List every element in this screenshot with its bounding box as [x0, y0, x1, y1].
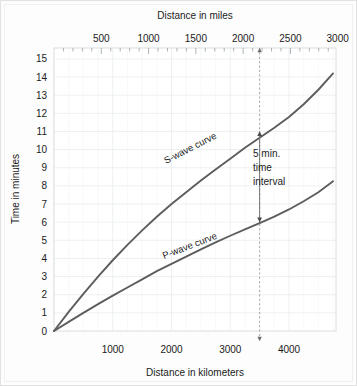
bottom-tick-label: 3000: [219, 344, 242, 355]
top-tick-label: 3000: [327, 33, 350, 44]
bottom-axis-title: Distance in kilometers: [146, 367, 244, 378]
y-tick-label: 7: [41, 199, 47, 210]
y-tick-label: 4: [41, 253, 47, 264]
dashed-line-bottom-arrow: [257, 337, 261, 341]
plot-background: [54, 48, 336, 331]
interval-note-line-1: 5 min.: [253, 148, 280, 159]
top-axis-title: Distance in miles: [157, 10, 233, 21]
top-tick-label: 1000: [137, 33, 160, 44]
y-tick-label: 2: [41, 289, 47, 300]
y-axis-title: Time in minutes: [10, 154, 21, 224]
chart-svg: 50010001500200025003000 0123456789101112…: [1, 1, 357, 386]
y-tick-label: 3: [41, 271, 47, 282]
top-tick-label: 500: [93, 33, 110, 44]
y-tick-label: 1: [41, 307, 47, 318]
y-tick-label: 8: [41, 180, 47, 191]
bottom-tick-label: 1000: [102, 344, 125, 355]
x-axis-tick-labels: 1000200030004000: [102, 344, 301, 355]
y-tick-label: 15: [36, 53, 48, 64]
bottom-tick-label: 2000: [160, 344, 183, 355]
bottom-tick-label: 4000: [278, 344, 301, 355]
y-tick-label: 6: [41, 217, 47, 228]
seismic-travel-time-chart: 50010001500200025003000 0123456789101112…: [0, 0, 357, 386]
y-tick-label: 9: [41, 162, 47, 173]
top-tick-label: 2500: [279, 33, 302, 44]
y-tick-label: 10: [36, 144, 48, 155]
y-tick-label: 13: [36, 90, 48, 101]
interval-note-line-3: interval: [253, 176, 285, 187]
y-axis-tick-labels: 0123456789101112131415: [36, 53, 48, 336]
y-tick-label: 5: [41, 235, 47, 246]
top-tick-label: 1500: [185, 33, 208, 44]
interval-note-line-2: time: [253, 162, 272, 173]
y-tick-label: 12: [36, 108, 48, 119]
top-tick-label: 2000: [232, 33, 255, 44]
top-axis-tick-labels: 50010001500200025003000: [93, 33, 349, 44]
y-tick-label: 14: [36, 72, 48, 83]
y-tick-label: 11: [37, 126, 48, 137]
y-tick-label: 0: [41, 326, 47, 337]
